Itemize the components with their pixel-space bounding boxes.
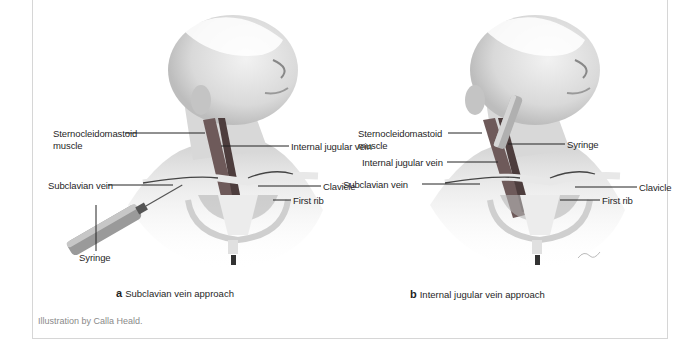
caption-text-b: Internal jugular vein approach bbox=[420, 289, 545, 300]
label-clavicle: Clavicle bbox=[639, 182, 671, 193]
label-syringe: Syringe bbox=[79, 252, 111, 263]
label-scm: Sternocleidomastoid bbox=[358, 128, 442, 139]
label-internal-jugular-vein: Internal jugular vein bbox=[362, 157, 443, 168]
caption-letter-b: b bbox=[410, 288, 417, 300]
label-scm-muscle: muscle bbox=[53, 140, 83, 151]
caption-a: aSubclavian vein approach bbox=[116, 287, 234, 299]
caption-b: bInternal jugular vein approach bbox=[410, 288, 545, 300]
label-scm-muscle: muscle bbox=[358, 140, 388, 151]
caption-text-a: Subclavian vein approach bbox=[125, 288, 234, 299]
illustration-internal-jugular-approach bbox=[350, 0, 680, 300]
label-subclavian-vein: Subclavian vein bbox=[343, 179, 408, 190]
label-syringe: Syringe bbox=[567, 139, 599, 150]
panel-a-subclavian-approach: Sternocleidomastoid muscle Internal jugu… bbox=[33, 0, 363, 300]
label-first-rib: First rib bbox=[293, 195, 324, 206]
illustration-credit: Illustration by Calla Heald. bbox=[38, 316, 143, 326]
panel-b-internal-jugular-approach: Sternocleidomastoid muscle Syringe Inter… bbox=[350, 0, 680, 300]
label-subclavian-vein: Subclavian vein bbox=[48, 180, 113, 191]
label-first-rib: First rib bbox=[602, 195, 633, 206]
label-scm: Sternocleidomastoid bbox=[53, 128, 137, 139]
caption-letter-a: a bbox=[116, 287, 122, 299]
